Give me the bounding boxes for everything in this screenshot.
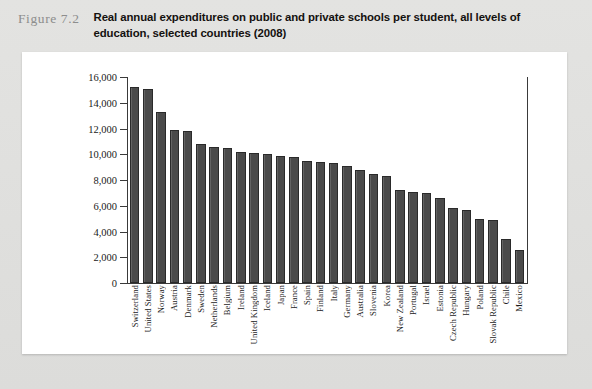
bar xyxy=(289,157,299,283)
x-axis-label: Spain xyxy=(302,285,312,305)
x-label-cell: Norway xyxy=(155,285,168,351)
x-axis-label: Hungary xyxy=(461,285,471,316)
bar xyxy=(276,156,286,283)
bar-cell xyxy=(155,77,168,283)
y-axis-tick-label: 6,000 xyxy=(93,200,117,211)
bar-cell xyxy=(168,77,181,283)
bar-cell xyxy=(221,77,234,283)
plot-area: 16,00014,00012,00010,0008,0006,0004,0002… xyxy=(127,77,527,283)
x-axis-label: United States xyxy=(143,285,153,332)
x-label-cell: Switzerland xyxy=(128,285,141,351)
x-label-cell: Mexico xyxy=(513,285,526,351)
x-axis-labels: SwitzerlandUnited StatesNorwayAustriaDen… xyxy=(128,285,526,351)
bar-cell xyxy=(367,77,380,283)
bar-cell xyxy=(499,77,512,283)
bar-cell xyxy=(128,77,141,283)
bar xyxy=(329,163,339,283)
x-axis-label: Ireland xyxy=(236,285,246,310)
bar-series xyxy=(128,77,526,283)
x-label-cell: New Zealand xyxy=(393,285,406,351)
x-axis-label: Netherlands xyxy=(209,285,219,328)
bar xyxy=(501,239,511,283)
y-axis-tick xyxy=(120,232,127,233)
figure-label: Figure 7.2 xyxy=(18,10,80,27)
chart-panel: 16,00014,00012,00010,0008,0006,0004,0002… xyxy=(22,52,567,354)
x-label-cell: Hungary xyxy=(460,285,473,351)
x-label-cell: Australia xyxy=(354,285,367,351)
bar-cell xyxy=(247,77,260,283)
bar-cell xyxy=(274,77,287,283)
bar xyxy=(170,130,180,283)
x-label-cell: Denmark xyxy=(181,285,194,351)
x-label-cell: Sweden xyxy=(194,285,207,351)
bar-cell xyxy=(314,77,327,283)
bar xyxy=(302,161,312,283)
x-label-cell: Belgium xyxy=(221,285,234,351)
bar-cell xyxy=(141,77,154,283)
bar xyxy=(462,210,472,283)
bar-cell xyxy=(261,77,274,283)
x-label-cell: Slovak Republic xyxy=(486,285,499,351)
x-axis-label: Chile xyxy=(501,285,511,304)
x-axis-label: Switzerland xyxy=(130,285,140,327)
bar xyxy=(369,174,379,283)
bar xyxy=(316,162,326,283)
x-axis-label: Belgium xyxy=(222,285,232,315)
plot-right-border xyxy=(527,77,528,284)
x-axis-label: France xyxy=(289,285,299,309)
bar-cell xyxy=(234,77,247,283)
x-label-cell: Iceland xyxy=(261,285,274,351)
y-axis-tick xyxy=(120,206,127,207)
bar xyxy=(395,190,405,283)
x-label-cell: Spain xyxy=(300,285,313,351)
x-label-cell: Portugal xyxy=(407,285,420,351)
x-label-cell: Poland xyxy=(473,285,486,351)
x-axis-label: United Kingdom xyxy=(249,285,259,344)
x-label-cell: Germany xyxy=(340,285,353,351)
bar xyxy=(130,87,140,283)
bar-cell xyxy=(393,77,406,283)
figure-header: Figure 7.2 Real annual expenditures on p… xyxy=(18,10,578,41)
bar xyxy=(143,89,153,283)
x-axis-label: Australia xyxy=(355,285,365,317)
figure-title: Real annual expenditures on public and p… xyxy=(94,10,546,41)
bar xyxy=(236,152,246,283)
x-axis-label: Poland xyxy=(475,285,485,309)
bar xyxy=(488,220,498,283)
x-label-cell: Ireland xyxy=(234,285,247,351)
x-label-cell: United Kingdom xyxy=(247,285,260,351)
x-axis-label: Czech Republic xyxy=(448,285,458,341)
bar xyxy=(435,198,445,283)
x-axis-label: Slovenia xyxy=(368,285,378,316)
bar-cell xyxy=(407,77,420,283)
x-axis-label: Korea xyxy=(382,285,392,307)
y-axis-tick xyxy=(120,103,127,104)
bar-cell xyxy=(327,77,340,283)
page-background: Figure 7.2 Real annual expenditures on p… xyxy=(0,0,592,389)
bar-cell xyxy=(486,77,499,283)
y-axis-tick-label: 0 xyxy=(112,278,117,289)
bar xyxy=(515,250,525,283)
y-axis-tick-label: 4,000 xyxy=(93,226,117,237)
x-axis-label: Slovak Republic xyxy=(488,285,498,344)
x-axis-label: Austria xyxy=(169,285,179,311)
x-label-cell: Netherlands xyxy=(208,285,221,351)
y-axis-tick xyxy=(120,257,127,258)
bar xyxy=(382,176,392,283)
bar-cell xyxy=(181,77,194,283)
x-axis-label: Finland xyxy=(315,285,325,312)
x-label-cell: France xyxy=(287,285,300,351)
x-axis-label: Norway xyxy=(156,285,166,313)
x-label-cell: United States xyxy=(141,285,154,351)
x-label-cell: Estonia xyxy=(433,285,446,351)
bar-cell xyxy=(380,77,393,283)
x-axis-label: Estonia xyxy=(435,285,445,311)
bar-cell xyxy=(513,77,526,283)
bar-cell xyxy=(340,77,353,283)
x-axis-label: Iceland xyxy=(262,285,272,311)
x-axis-label: Japan xyxy=(276,285,286,305)
bar xyxy=(196,144,206,283)
x-axis-label: Germany xyxy=(342,285,352,318)
bar-cell xyxy=(194,77,207,283)
y-axis-tick xyxy=(120,77,127,78)
